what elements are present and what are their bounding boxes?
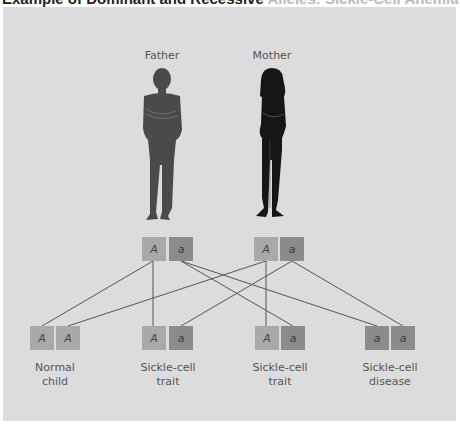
normal-child-label-line1: Normal <box>20 361 90 375</box>
trait2-label-line1: Sickle-cell <box>244 361 316 375</box>
trait2-allele-1: A <box>255 326 279 350</box>
trait1-allele-1: A <box>142 326 166 350</box>
disease-label: Sickle-cell disease <box>354 361 426 389</box>
trait2-label: Sickle-cell trait <box>244 361 316 389</box>
trait2-label-line2: trait <box>244 375 316 389</box>
trait1-label-line2: trait <box>132 375 204 389</box>
disease-label-line1: Sickle-cell <box>354 361 426 375</box>
father-label: Father <box>142 49 182 63</box>
trait1-label: Sickle-cell trait <box>132 361 204 389</box>
normal-child-label: Normal child <box>20 361 90 389</box>
disease-allele-2: a <box>391 326 415 350</box>
trait1-allele-2: a <box>169 326 193 350</box>
father-figure-icon <box>143 68 182 220</box>
normal-child-label-line2: child <box>20 375 90 389</box>
trait1-label-line1: Sickle-cell <box>132 361 204 375</box>
normal-child-allele-2: A <box>56 326 80 350</box>
father-allele-recessive: a <box>169 237 193 261</box>
normal-child-allele-1: A <box>30 326 54 350</box>
mother-allele-recessive: a <box>280 237 304 261</box>
father-allele-dominant: A <box>142 237 166 261</box>
mother-label: Mother <box>252 49 292 63</box>
mother-figure-icon <box>256 68 286 217</box>
trait2-allele-2: a <box>281 326 305 350</box>
disease-allele-1: a <box>365 326 389 350</box>
disease-label-line2: disease <box>354 375 426 389</box>
mother-allele-dominant: A <box>254 237 278 261</box>
